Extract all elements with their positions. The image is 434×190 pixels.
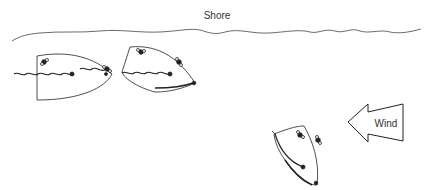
boat-middle-mast [168,72,172,76]
boat-middle-main-sail [122,72,170,74]
boat-right-mast [301,165,305,169]
boat-right-hull [274,126,318,185]
boat-middle [122,47,196,92]
wind-arrow: Wind [348,104,403,142]
boat-right-jib [285,160,312,185]
shore-label: Shore [204,10,231,21]
boat-left [14,54,112,100]
boat-left-mast [70,72,74,76]
boat-left-main-sail [14,73,74,75]
diagram: Shore [0,0,434,190]
wind-label: Wind [375,118,398,129]
shore-line [12,29,421,41]
boat-right [272,126,322,185]
diagram-svg: Shore [0,0,434,190]
boat-middle-jib [155,83,193,88]
